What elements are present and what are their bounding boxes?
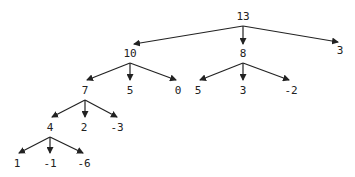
tree-node-label: 10 — [123, 47, 136, 60]
tree-node-label: -6 — [77, 157, 90, 170]
tree-edge-arrow — [50, 137, 83, 153]
tree-edge-arrow — [200, 63, 243, 80]
tree-edge-arrow — [19, 137, 50, 153]
tree-edge-arrow — [85, 100, 117, 117]
tree-edge-arrow — [134, 26, 243, 44]
tree-edge-arrow — [243, 63, 289, 80]
tree-node-label: -2 — [284, 84, 297, 97]
tree-edge-arrow — [130, 63, 176, 80]
tree-edge-arrow — [243, 26, 338, 42]
tree-node-label: 4 — [47, 121, 54, 134]
tree-diagram: 13108375053-242-31-1-6 — [0, 0, 355, 177]
tree-node-label: 2 — [81, 121, 88, 134]
tree-node-label: 8 — [240, 47, 247, 60]
tree-node-label: 0 — [175, 84, 182, 97]
tree-node-label: 5 — [127, 84, 134, 97]
tree-node-label: 7 — [82, 84, 89, 97]
tree-edge-arrow — [87, 63, 130, 80]
tree-node-label: 1 — [14, 157, 21, 170]
tree-node-label: 3 — [337, 44, 344, 57]
tree-node-label: 13 — [236, 10, 249, 23]
tree-node-label: -3 — [110, 121, 123, 134]
tree-node-label: 5 — [195, 84, 202, 97]
tree-edge-arrow — [52, 100, 85, 117]
tree-node-label: 3 — [240, 84, 247, 97]
tree-node-label: -1 — [43, 157, 56, 170]
